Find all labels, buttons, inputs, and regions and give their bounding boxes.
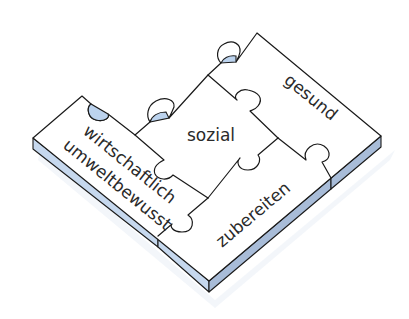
socket-hole-left xyxy=(88,104,108,121)
puzzle-diagram: sozial gesund zubereiten wirtschaftlich … xyxy=(0,0,409,319)
label-sozial: sozial xyxy=(187,125,235,145)
